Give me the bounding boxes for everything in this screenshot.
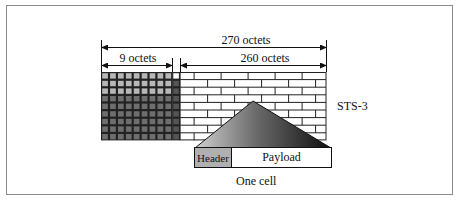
total-width-label: 270 octets [186, 33, 306, 47]
pointer-column [172, 72, 180, 140]
cell-caption: One cell [236, 174, 276, 188]
overhead-width-label: 9 octets [110, 51, 166, 65]
cell-payload-label: Payload [232, 150, 331, 164]
cell-header-label: Header [195, 151, 231, 165]
payload-width-label: 260 octets [220, 51, 310, 65]
frame-name-label: STS-3 [337, 99, 368, 113]
overhead-grid [101, 72, 172, 140]
sts3-frame-diagram [0, 0, 460, 202]
